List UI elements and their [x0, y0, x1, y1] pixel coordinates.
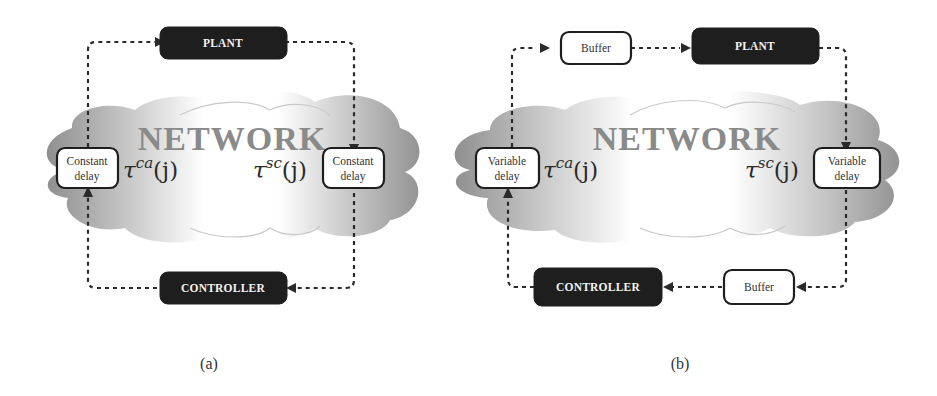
- top-buffer-block[interactable]: Buffer: [561, 32, 631, 64]
- plant-label: PLANT: [203, 37, 243, 49]
- caption-a: (a): [200, 355, 218, 373]
- controller-label: CONTROLLER: [181, 282, 265, 294]
- left-delay-line1: Constant: [67, 155, 109, 167]
- left-delay-block[interactable]: Variable delay: [476, 148, 539, 188]
- diagram-b: NETWORK Buffer PLANT CONTROLLER: [455, 28, 900, 373]
- right-delay-block[interactable]: Variable delay: [814, 148, 880, 188]
- bottom-buffer-block[interactable]: Buffer: [724, 270, 794, 304]
- right-delay-block[interactable]: Constant delay: [323, 148, 384, 188]
- network-label: NETWORK: [138, 120, 326, 157]
- controller-block[interactable]: CONTROLLER: [534, 268, 662, 306]
- right-delay-line2: delay: [341, 170, 366, 183]
- right-delay-line2: delay: [835, 170, 860, 183]
- diagram-a: NETWORK PLANT CONTROLLER Constant delay: [47, 27, 420, 373]
- bottom-buffer-label: Buffer: [744, 281, 774, 293]
- arrow-to-bottom-buffer: [796, 282, 806, 292]
- plant-block[interactable]: PLANT: [160, 27, 287, 59]
- left-delay-line2: delay: [75, 170, 100, 183]
- controller-block[interactable]: CONTROLLER: [160, 272, 287, 304]
- plant-label: PLANT: [735, 40, 775, 52]
- arrow-to-plant: [681, 43, 691, 53]
- left-delay-block[interactable]: Constant delay: [57, 148, 118, 188]
- arrow-to-controller: [663, 282, 673, 292]
- figure: NETWORK PLANT CONTROLLER Constant delay: [0, 0, 937, 396]
- network-label: NETWORK: [593, 120, 781, 157]
- arrow-to-top-buffer: [540, 43, 550, 53]
- plant-block[interactable]: PLANT: [692, 28, 819, 64]
- left-delay-line2: delay: [495, 170, 520, 183]
- left-delay-line1: Variable: [488, 155, 526, 167]
- top-buffer-label: Buffer: [581, 42, 611, 54]
- right-delay-line1: Constant: [333, 155, 375, 167]
- right-delay-line1: Variable: [828, 155, 866, 167]
- controller-label: CONTROLLER: [556, 281, 640, 293]
- caption-b: (b): [671, 355, 690, 373]
